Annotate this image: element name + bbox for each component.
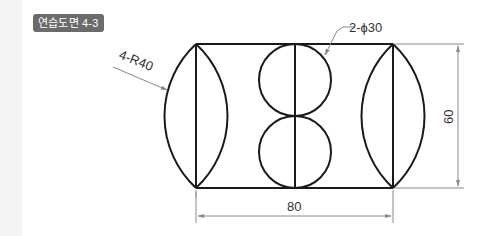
height-dimension: 60 [395, 44, 464, 188]
circle-label: 2-ϕ30 [349, 20, 382, 35]
center-circles [259, 44, 331, 188]
circle-leader: 2-ϕ30 [325, 20, 382, 55]
radius-leader: 4-R40 [113, 47, 167, 90]
height-dimension-label: 60 [441, 110, 456, 124]
left-lens-shape [164, 44, 227, 188]
width-dimension-label: 80 [287, 199, 301, 214]
width-dimension: 80 [196, 190, 393, 223]
right-lens-shape [361, 44, 424, 188]
technical-drawing: 4-R40 2-ϕ30 80 60 [0, 0, 483, 236]
radius-label: 4-R40 [117, 47, 155, 74]
